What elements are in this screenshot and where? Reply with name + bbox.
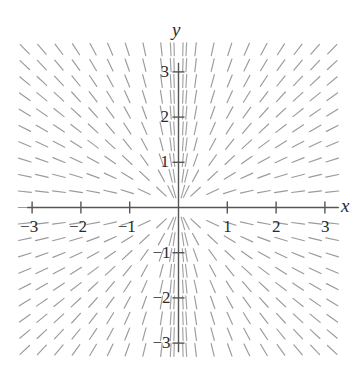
- slope-segment: [19, 125, 31, 131]
- slope-segment: [309, 268, 321, 273]
- slope-segment: [260, 108, 269, 118]
- slope-segment: [210, 139, 216, 150]
- slope-segment: [186, 328, 187, 341]
- slope-segment: [326, 125, 338, 131]
- slope-segment: [186, 280, 187, 293]
- slope-segment: [192, 170, 198, 181]
- slope-segment: [170, 154, 172, 167]
- slope-segment: [186, 122, 187, 135]
- slope-segment: [87, 252, 98, 258]
- slope-segment: [242, 266, 252, 275]
- slope-segment: [194, 122, 197, 135]
- slope-segment: [88, 267, 98, 275]
- slope-segment: [258, 174, 270, 179]
- slope-segment: [327, 345, 337, 354]
- slope-segment: [170, 106, 171, 119]
- slope-segment: [70, 141, 81, 148]
- slope-segment: [19, 253, 31, 257]
- slope-segment: [276, 283, 286, 291]
- slope-segment: [183, 312, 184, 325]
- y-tick-label: 2: [161, 108, 170, 125]
- slope-segment: [310, 93, 320, 101]
- slope-segment: [258, 252, 269, 258]
- slope-segment: [275, 267, 286, 274]
- slope-segment: [125, 328, 130, 340]
- slope-segment: [275, 237, 287, 241]
- slope-segment: [224, 236, 235, 243]
- y-tick-label: 1: [161, 153, 170, 170]
- slope-segment: [277, 345, 285, 356]
- x-tick-label: 3: [321, 218, 330, 235]
- slope-segment: [20, 314, 31, 322]
- slope-segment: [20, 330, 30, 338]
- slope-segment: [89, 92, 97, 102]
- slope-segment: [89, 313, 97, 323]
- slope-segment: [277, 44, 284, 55]
- slope-segment: [142, 296, 146, 308]
- slope-segment: [292, 191, 305, 193]
- slope-segment: [143, 344, 146, 357]
- slope-segment: [275, 174, 287, 178]
- slope-segment: [309, 253, 321, 257]
- slope-segment: [54, 283, 65, 290]
- slope-segment: [170, 43, 171, 56]
- slope-segment: [53, 191, 66, 193]
- slope-segment: [143, 43, 146, 56]
- slope-segment: [160, 312, 162, 325]
- slope-segment: [106, 282, 115, 292]
- slope-segment: [226, 266, 234, 276]
- slope-segment: [19, 299, 30, 306]
- slope-segment: [193, 249, 197, 261]
- slope-segment: [107, 59, 113, 71]
- slope-segment: [72, 60, 80, 71]
- slope-segment: [243, 123, 252, 133]
- slope-segment: [293, 92, 303, 101]
- slope-field-plot: [0, 0, 361, 372]
- slope-segment: [87, 237, 99, 242]
- slope-segment: [211, 59, 214, 72]
- slope-segment: [195, 43, 196, 56]
- slope-segment: [326, 175, 339, 178]
- slope-segment: [140, 171, 150, 180]
- slope-segment: [260, 329, 267, 340]
- slope-segment: [228, 344, 232, 356]
- slope-segment: [294, 60, 302, 70]
- slope-segment: [36, 158, 48, 162]
- slope-segment: [104, 173, 116, 178]
- slope-segment: [194, 280, 197, 293]
- slope-segment: [327, 61, 337, 70]
- slope-segment: [183, 90, 184, 103]
- slope-segment: [294, 345, 302, 355]
- slope-segment: [88, 124, 98, 133]
- slope-segment: [210, 106, 214, 118]
- slope-segment: [157, 187, 167, 196]
- slope-segment: [226, 281, 233, 292]
- slope-segment: [243, 282, 252, 292]
- slope-segment: [227, 328, 232, 340]
- slope-segment: [211, 312, 215, 324]
- slope-segment: [53, 158, 65, 163]
- slope-segment: [292, 222, 305, 224]
- slope-segment: [87, 157, 98, 163]
- slope-segment: [53, 268, 64, 274]
- slope-segment: [90, 344, 97, 355]
- slope-segment: [275, 157, 287, 162]
- slope-segment: [19, 142, 31, 147]
- slope-segment: [72, 345, 80, 356]
- slope-segment: [185, 233, 188, 246]
- slope-segment: [194, 265, 197, 278]
- slope-segment: [19, 268, 31, 273]
- slope-segment: [160, 265, 163, 278]
- slope-segment: [241, 236, 253, 241]
- slope-segment: [174, 90, 175, 103]
- slope-segment: [174, 312, 175, 325]
- slope-segment: [244, 75, 250, 86]
- slope-segment: [261, 60, 268, 71]
- slope-segment: [211, 75, 214, 88]
- slope-segment: [174, 264, 175, 277]
- x-tick-label: −3: [20, 218, 38, 235]
- slope-segment: [327, 314, 338, 322]
- slope-segment: [37, 330, 47, 339]
- slope-segment: [170, 74, 171, 87]
- slope-segment: [244, 344, 250, 356]
